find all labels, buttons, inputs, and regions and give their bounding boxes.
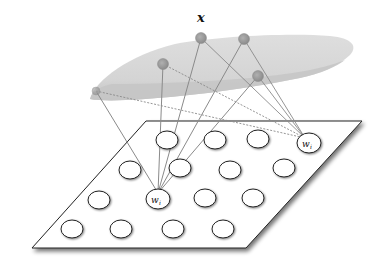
input-manifold xyxy=(90,35,353,101)
map-unit xyxy=(273,159,295,177)
input-label-x: x xyxy=(196,10,205,25)
winner-unit-subscript: i xyxy=(159,199,161,206)
winner-unit-label: w xyxy=(151,195,159,205)
map-unit xyxy=(88,191,110,209)
input-node xyxy=(92,87,100,95)
map-unit xyxy=(61,220,83,238)
map-unit xyxy=(242,189,264,207)
map-unit xyxy=(194,189,216,207)
map-unit xyxy=(219,161,241,179)
map-unit xyxy=(162,220,184,238)
input-node xyxy=(253,71,264,82)
map-unit xyxy=(247,130,269,148)
map-unit xyxy=(204,131,226,149)
map-unit xyxy=(156,131,178,149)
far-unit-label: w xyxy=(302,139,310,149)
input-node xyxy=(196,33,207,44)
input-node xyxy=(239,34,250,45)
map-unit xyxy=(119,161,141,179)
map-unit xyxy=(169,159,191,177)
input-node xyxy=(158,59,169,70)
som-diagram: x w i w i xyxy=(0,0,382,268)
map-unit xyxy=(212,220,234,238)
map-unit xyxy=(110,220,132,238)
far-unit-subscript: i xyxy=(310,143,312,150)
